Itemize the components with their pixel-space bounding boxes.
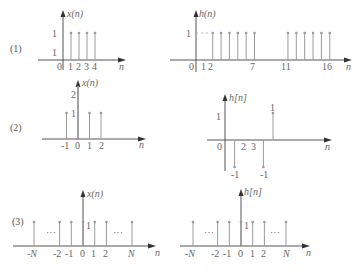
y-label: h[n] bbox=[229, 92, 247, 103]
ellipsis-left: ··· bbox=[46, 227, 56, 238]
y-tick-1: 1 bbox=[244, 220, 249, 231]
stem-head bbox=[320, 32, 323, 35]
stem-head bbox=[105, 221, 108, 224]
x-tick: 1 bbox=[91, 248, 96, 259]
stem-head bbox=[216, 221, 219, 224]
ellipsis-right: ··· bbox=[113, 227, 123, 238]
x-tick: 7 bbox=[250, 61, 255, 72]
stem-head bbox=[251, 221, 254, 224]
y-tick-1-low: 1 bbox=[52, 47, 57, 58]
x-tick: 2 bbox=[241, 141, 246, 152]
y-label: x(n) bbox=[81, 77, 99, 89]
x-tick: -1 bbox=[223, 248, 231, 259]
stem-head bbox=[262, 166, 265, 169]
x-tick: -2 bbox=[53, 248, 61, 259]
y-label: h[n] bbox=[244, 186, 262, 197]
stem-head bbox=[287, 32, 290, 35]
x-tick: 2 bbox=[103, 248, 108, 259]
x-tick: 2 bbox=[99, 140, 104, 151]
ellipsis-right: ··· bbox=[270, 227, 280, 238]
y-label: x(n) bbox=[86, 188, 104, 200]
x-tick: 3 bbox=[251, 141, 256, 152]
stem-head bbox=[94, 32, 97, 35]
ellipsis-left: ··· bbox=[204, 227, 214, 238]
x-tick: 16 bbox=[322, 61, 332, 72]
stem-head bbox=[237, 32, 240, 35]
x-tick: 1 bbox=[201, 61, 206, 72]
stem-head bbox=[33, 221, 36, 224]
x-label: n bbox=[306, 247, 311, 258]
x-tick: -1 bbox=[61, 140, 69, 151]
x-tick: 0 bbox=[57, 61, 62, 72]
panel-3-label: (3) bbox=[12, 216, 24, 228]
stem-head bbox=[192, 221, 195, 224]
y-label: h(n) bbox=[199, 8, 216, 20]
stem-head bbox=[86, 32, 89, 35]
stem-head bbox=[93, 221, 96, 224]
x-tick: 0 bbox=[75, 140, 80, 151]
stem-head bbox=[228, 32, 231, 35]
stem-head bbox=[245, 32, 248, 35]
stem-head bbox=[88, 112, 91, 115]
x-tick: 1 bbox=[250, 248, 255, 259]
x-tick: 0 bbox=[217, 141, 222, 152]
x-tick: N bbox=[127, 248, 136, 259]
diagram-canvas: (1) (2) (3) x(n) n 1 1 0 1 2 3 4 h(n) n … bbox=[0, 0, 359, 279]
y-axis-arrow-icon bbox=[61, 10, 66, 17]
x-tick: -N bbox=[27, 248, 38, 259]
stem-head bbox=[328, 32, 331, 35]
stem-head bbox=[228, 221, 231, 224]
panel-1-label: (1) bbox=[10, 43, 22, 55]
stem-head bbox=[82, 221, 85, 224]
stem-head bbox=[312, 32, 315, 35]
stem-head bbox=[233, 166, 236, 169]
stem-head bbox=[303, 32, 306, 35]
stem-head bbox=[70, 221, 73, 224]
x-tick: 0 bbox=[189, 61, 194, 72]
x-label: n bbox=[155, 247, 160, 258]
plot-1-left: x(n) n 1 1 0 1 2 3 4 bbox=[38, 8, 126, 72]
x-tick: 1 bbox=[68, 61, 73, 72]
y-tick-1: 1 bbox=[71, 108, 76, 119]
x-tick: N bbox=[282, 248, 291, 259]
y-axis-arrow-icon bbox=[81, 190, 86, 197]
plot-3-right: h[n] n 1 ··· ··· -N -2 -1 0 1 2 N bbox=[180, 186, 311, 259]
plot-1-right: h(n) n 1 0 1 2 7 11 16 bbox=[170, 8, 352, 72]
stem-head bbox=[100, 112, 103, 115]
stem-head bbox=[211, 32, 214, 35]
x-label: n bbox=[119, 61, 124, 72]
plot-2-right: h[n] n 1 0 2 3 -1 -1 1 bbox=[207, 92, 332, 180]
stem-head bbox=[78, 32, 81, 35]
x-tick: -2 bbox=[211, 248, 219, 259]
stem-head bbox=[77, 86, 80, 89]
stem-head bbox=[240, 221, 243, 224]
y-tick-1: 1 bbox=[186, 28, 191, 39]
panel-2-label: (2) bbox=[10, 122, 22, 134]
x-tick: 2 bbox=[208, 61, 213, 72]
plot-2-left: x(n) n 2 1 -1 0 1 2 bbox=[42, 77, 146, 151]
y-tick-1: 1 bbox=[86, 220, 91, 231]
y-tick-2: 2 bbox=[71, 89, 76, 100]
x-tick: -N bbox=[185, 248, 196, 259]
stem-label: -1 bbox=[231, 169, 239, 180]
stem-head bbox=[58, 221, 61, 224]
x-tick: -1 bbox=[65, 248, 73, 259]
x-tick: 1 bbox=[87, 140, 92, 151]
y-axis-arrow-icon bbox=[223, 94, 228, 101]
plot-3-left: x(n) n 1 ··· ··· -N -2 -1 0 1 2 N bbox=[13, 188, 160, 259]
stem-head bbox=[295, 32, 298, 35]
stem-head bbox=[263, 221, 266, 224]
y-tick-1: 1 bbox=[52, 28, 57, 39]
x-tick: 0 bbox=[80, 248, 85, 259]
x-tick: 2 bbox=[76, 61, 81, 72]
stem-label: 1 bbox=[270, 102, 275, 113]
stem-head bbox=[253, 32, 256, 35]
x-tick: 2 bbox=[261, 248, 266, 259]
x-tick: 11 bbox=[281, 61, 291, 72]
stem-label: -1 bbox=[260, 169, 268, 180]
stem-head bbox=[131, 221, 134, 224]
y-axis-arrow-icon bbox=[239, 189, 244, 196]
x-label: n bbox=[346, 61, 351, 72]
y-axis-arrow-icon bbox=[194, 10, 199, 17]
x-label: n bbox=[139, 139, 144, 150]
